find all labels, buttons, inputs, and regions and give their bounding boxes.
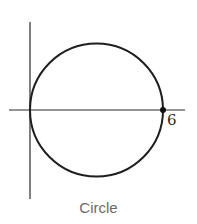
point-label: 6 xyxy=(167,113,177,128)
figure-caption: Circle xyxy=(0,200,197,215)
point-marker-icon xyxy=(160,107,166,113)
